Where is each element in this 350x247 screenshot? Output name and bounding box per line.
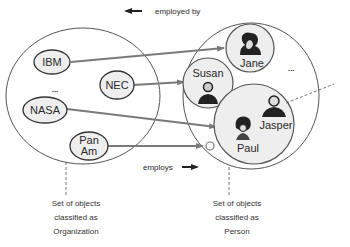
svg-text:NEC: NEC: [105, 79, 128, 91]
svg-text:classified as: classified as: [54, 213, 98, 222]
diagram-canvas: employed by IBM ... NEC NASA Pan Am Jane: [0, 0, 350, 247]
org-node-nec: NEC: [100, 71, 134, 99]
employs-label: employs: [143, 163, 173, 172]
svg-text:Susan: Susan: [192, 67, 223, 79]
org-ellipsis: ...: [52, 85, 59, 94]
person-ellipsis: ...: [288, 64, 295, 73]
org-node-panam: Pan Am: [70, 132, 108, 160]
employs-legend: employs: [143, 163, 197, 172]
svg-text:Am: Am: [81, 145, 98, 157]
organization-caption: Set of objects classified as Organizatio…: [52, 199, 100, 236]
nasa-paul-arrow: [67, 109, 216, 127]
person-caption: Set of objects classified as Person: [213, 199, 261, 236]
svg-text:Jane: Jane: [240, 57, 264, 69]
person-node-jane: Jane: [226, 24, 274, 72]
svg-text:classified as: classified as: [215, 213, 259, 222]
svg-text:Organization: Organization: [53, 227, 98, 236]
employed-by-legend: employed by: [126, 7, 200, 16]
svg-text:NASA: NASA: [30, 104, 61, 116]
dashed-pointer-line: [286, 84, 334, 103]
org-node-nasa: NASA: [23, 97, 67, 123]
empty-object-circle-icon: [206, 142, 214, 150]
svg-text:Set of objects: Set of objects: [213, 199, 261, 208]
svg-text:Jasper: Jasper: [259, 119, 292, 131]
employed-by-label: employed by: [155, 7, 200, 16]
person-node-jasper-paul: Jasper Paul: [214, 84, 294, 164]
svg-text:IBM: IBM: [42, 56, 62, 68]
svg-text:Paul: Paul: [237, 142, 259, 154]
org-node-ibm: IBM: [34, 50, 70, 74]
svg-text:Person: Person: [224, 227, 249, 236]
svg-text:Set of objects: Set of objects: [52, 199, 100, 208]
